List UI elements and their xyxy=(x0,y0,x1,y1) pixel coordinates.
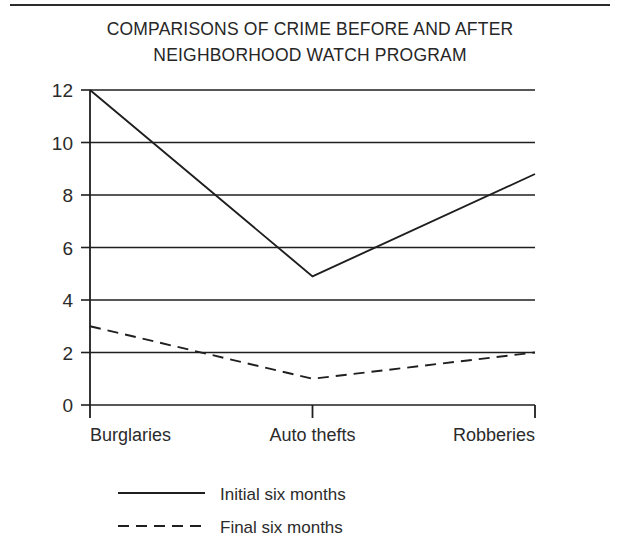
y-axis-tick-label: 8 xyxy=(62,185,73,206)
y-axis-tick-label: 4 xyxy=(62,290,73,311)
y-axis-tick-label: 10 xyxy=(52,133,73,154)
chart-page: COMPARISONS OF CRIME BEFORE AND AFTERNEI… xyxy=(0,0,620,556)
x-axis-group xyxy=(90,405,535,418)
y-axis-tick-label: 12 xyxy=(52,80,73,101)
y-axis-ticks-group xyxy=(81,90,90,405)
x-axis-category-label: Robberies xyxy=(453,425,535,445)
x-axis-category-label: Burglaries xyxy=(90,425,171,445)
x-axis-labels-group: BurglariesAuto theftsRobberies xyxy=(90,425,535,445)
gridlines-group xyxy=(90,90,535,405)
legend-label: Final six months xyxy=(220,518,343,537)
data-series-group xyxy=(90,90,535,379)
x-axis-category-label: Auto thefts xyxy=(269,425,355,445)
y-axis-labels-group: 024681012 xyxy=(52,80,74,416)
legend-label: Initial six months xyxy=(220,485,346,504)
series-line xyxy=(90,90,535,276)
line-chart: 024681012 BurglariesAuto theftsRobberies… xyxy=(0,0,620,556)
y-axis-tick-label: 2 xyxy=(62,343,73,364)
y-axis-tick-label: 0 xyxy=(62,395,73,416)
y-axis-tick-label: 6 xyxy=(62,238,73,259)
legend-group: Initial six monthsFinal six months xyxy=(118,485,346,537)
